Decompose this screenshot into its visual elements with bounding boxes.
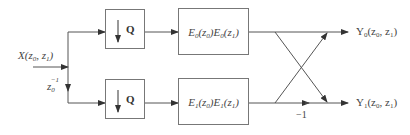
y1-p3: , z (380, 96, 390, 108)
y1-p2: (z (367, 96, 376, 108)
butterfly-gain-label: −1 (296, 110, 307, 120)
output-label-top: Y0(z0, z1) (356, 26, 397, 39)
delay-label: z0−1 (47, 80, 59, 94)
filter-box-top: E0(z0)E0(z1) (178, 8, 249, 55)
decimator-label-top: Q (126, 23, 135, 35)
f0-p4: (z (224, 26, 232, 38)
f1-p3: )E (210, 96, 220, 108)
y1-p1: Y (356, 96, 364, 108)
input-label-mid: , z (36, 49, 46, 61)
f1-p5: ) (235, 96, 239, 108)
y0-p4: ) (393, 25, 397, 37)
filter-label-bottom: E1(z0)E1(z1) (179, 96, 248, 110)
output-label-bottom: Y1(z0, z1) (356, 97, 397, 110)
f0-p1: E (188, 26, 195, 38)
f1-p1: E (188, 96, 195, 108)
y1-p4: ) (393, 96, 397, 108)
y0-p3: , z (380, 25, 390, 37)
decimator-box-top: Q (105, 9, 145, 49)
f0-p3: )E (210, 26, 220, 38)
y0-p1: Y (356, 25, 364, 37)
filter-label-top: E0(z0)E0(z1) (179, 26, 248, 40)
f0-p5: ) (235, 26, 239, 38)
input-label-end: ) (49, 49, 53, 61)
f1-p4: (z (224, 96, 232, 108)
input-signal-label: X(z0, z1) (18, 50, 53, 63)
decimator-box-bottom: Q (105, 79, 145, 119)
delay-sub: 0 (51, 86, 55, 94)
decimator-label-bottom: Q (126, 93, 135, 105)
y0-p2: (z (367, 25, 376, 37)
input-label-text: X(z (18, 49, 33, 61)
filter-box-bottom: E1(z0)E1(z1) (178, 78, 249, 125)
delay-sup: −1 (51, 76, 59, 84)
